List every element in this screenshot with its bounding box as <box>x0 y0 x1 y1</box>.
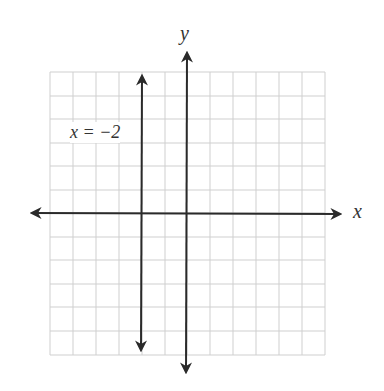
coordinate-plane <box>0 0 384 391</box>
line-equation-label: x = −2 <box>70 122 120 143</box>
y-axis <box>186 53 187 372</box>
vertical-line-x-neg-2 <box>141 76 142 350</box>
x-axis-label: x <box>353 200 362 223</box>
y-axis-label: y <box>180 22 189 45</box>
